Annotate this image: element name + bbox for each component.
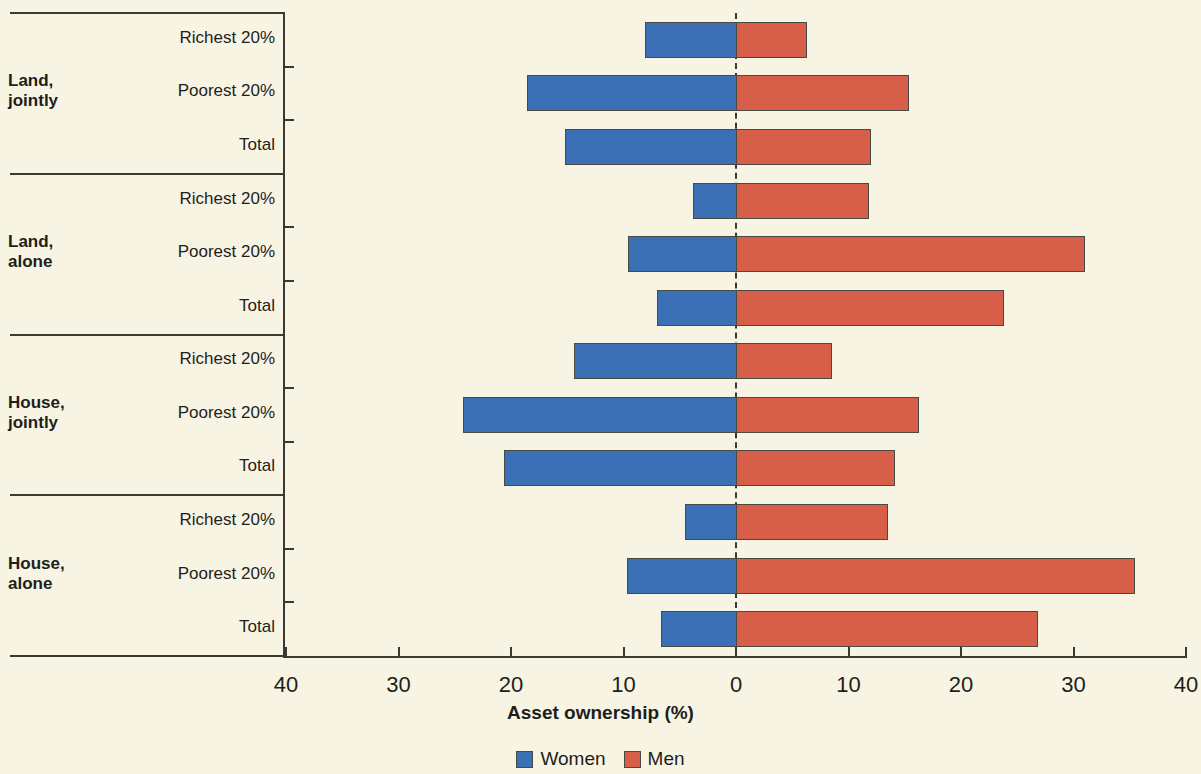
x-axis-tick-label: 0: [701, 672, 771, 698]
legend-swatch-men-icon: [624, 751, 641, 768]
group-label-1: Land,jointly: [8, 71, 128, 111]
x-axis-tick-label: 30: [364, 672, 434, 698]
x-axis-title: Asset ownership (%): [0, 702, 1201, 724]
bar-women: [628, 236, 737, 272]
legend-item-women[interactable]: Women: [516, 748, 605, 770]
bar-women: [685, 504, 737, 540]
bar-women: [527, 75, 737, 111]
bar-women: [463, 397, 737, 433]
legend-swatch-women-icon: [516, 751, 533, 768]
row-label: Richest 20%: [125, 350, 275, 369]
group-divider: [10, 173, 285, 175]
x-axis-tick: [623, 647, 625, 658]
group-label-line2: jointly: [8, 91, 58, 110]
x-axis-tick-label: 30: [1039, 672, 1109, 698]
bar-men: [736, 611, 1038, 647]
x-axis-tick-label: 10: [589, 672, 659, 698]
chart-root: Land,jointlyRichest 20%Poorest 20%TotalL…: [0, 0, 1201, 774]
group-label-line1: House,: [8, 554, 65, 573]
x-axis-tick: [510, 647, 512, 658]
bar-women: [627, 558, 737, 594]
bar-men: [736, 558, 1135, 594]
bar-men: [736, 75, 909, 111]
bar-men: [736, 450, 895, 486]
row-label: Poorest 20%: [125, 565, 275, 584]
y-axis-tick: [283, 387, 294, 389]
row-label: Poorest 20%: [125, 82, 275, 101]
x-axis-tick: [1185, 647, 1187, 658]
row-label: Poorest 20%: [125, 243, 275, 262]
row-label: Total: [125, 618, 275, 637]
x-axis-tick: [960, 647, 962, 658]
bar-men: [736, 504, 888, 540]
y-axis-tick: [283, 66, 294, 68]
bar-women: [645, 22, 737, 58]
x-axis-tick: [735, 647, 737, 658]
group-divider: [10, 12, 285, 14]
legend-label-men: Men: [648, 748, 685, 770]
bar-men: [736, 236, 1085, 272]
bar-women: [504, 450, 737, 486]
y-axis-tick: [283, 280, 294, 282]
x-axis-tick-label: 10: [814, 672, 884, 698]
x-axis-tick: [848, 647, 850, 658]
x-axis-tick-label: 40: [251, 672, 321, 698]
bar-men: [736, 129, 871, 165]
group-label-line2: alone: [8, 252, 52, 271]
x-axis-tick-label: 40: [1151, 672, 1201, 698]
group-divider: [10, 494, 285, 496]
y-axis-tick: [283, 441, 294, 443]
diverging-bar-chart: Land,jointlyRichest 20%Poorest 20%TotalL…: [0, 0, 1201, 774]
group-label-3: House,jointly: [8, 393, 128, 433]
group-label-4: House,alone: [8, 554, 128, 594]
bar-women: [565, 129, 737, 165]
bar-men: [736, 183, 869, 219]
x-axis-tick-label: 20: [476, 672, 546, 698]
bar-men: [736, 290, 1004, 326]
row-label: Richest 20%: [125, 29, 275, 48]
row-label: Richest 20%: [125, 511, 275, 530]
x-axis-tick: [398, 647, 400, 658]
group-label-2: Land,alone: [8, 232, 128, 272]
group-divider: [10, 655, 285, 657]
legend-item-men[interactable]: Men: [624, 748, 685, 770]
y-axis-tick: [283, 226, 294, 228]
row-label: Poorest 20%: [125, 404, 275, 423]
row-label: Total: [125, 457, 275, 476]
row-label: Total: [125, 136, 275, 155]
y-axis-spine: [283, 13, 285, 658]
group-label-line1: Land,: [8, 232, 53, 251]
row-label: Total: [125, 297, 275, 316]
bar-men: [736, 343, 832, 379]
legend-label-women: Women: [540, 748, 605, 770]
bar-women: [657, 290, 737, 326]
bar-women: [574, 343, 737, 379]
group-label-line2: alone: [8, 574, 52, 593]
group-divider: [10, 334, 285, 336]
bar-women: [693, 183, 737, 219]
x-axis-tick: [1073, 647, 1075, 658]
group-label-line1: House,: [8, 393, 65, 412]
group-label-line2: jointly: [8, 413, 58, 432]
bar-men: [736, 22, 807, 58]
chart-legend: Women Men: [0, 748, 1201, 770]
bar-women: [661, 611, 737, 647]
row-label: Richest 20%: [125, 190, 275, 209]
y-axis-tick: [283, 601, 294, 603]
y-axis-tick: [283, 548, 294, 550]
x-axis-tick-label: 20: [926, 672, 996, 698]
group-label-line1: Land,: [8, 71, 53, 90]
x-axis-tick: [285, 647, 287, 658]
bar-men: [736, 397, 919, 433]
y-axis-tick: [283, 119, 294, 121]
